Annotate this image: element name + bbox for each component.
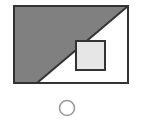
geometry-figure [0,0,143,122]
inner-square [76,41,105,70]
